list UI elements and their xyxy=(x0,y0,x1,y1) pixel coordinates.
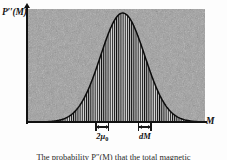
plot-area xyxy=(28,9,205,122)
distribution-curve-svg xyxy=(28,9,205,122)
y-axis-label: P′′(M) xyxy=(2,8,27,18)
interval-marker-label-dM: dM xyxy=(127,132,163,141)
y-axis-label-text: P′′(M) xyxy=(2,7,27,17)
x-axis-label: M xyxy=(206,117,214,127)
interval-marker-label-two-mu-zero: 2μ0 xyxy=(84,132,120,142)
marker-arrow-left-icon xyxy=(96,125,99,129)
plot-canvas xyxy=(28,9,205,122)
marker-arrow-right-icon xyxy=(106,125,109,129)
x-axis-label-text: M xyxy=(206,116,214,126)
marker-arrow-left-icon xyxy=(139,125,142,129)
figure-caption: The probability P″(M) that the total mag… xyxy=(0,153,227,160)
y-axis-arrowhead-icon xyxy=(24,3,30,8)
marker-arrow-right-icon xyxy=(148,125,151,129)
figure-root: P′′(M) xyxy=(0,0,227,160)
x-axis-line xyxy=(26,121,207,123)
figure-caption-text: The probability P″(M) that the total mag… xyxy=(36,153,190,160)
y-axis-line xyxy=(26,7,28,124)
